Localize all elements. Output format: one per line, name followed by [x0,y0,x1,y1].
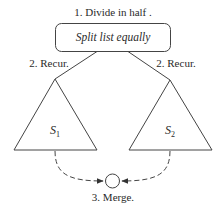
subproblem-s2-triangle: S2 [129,80,212,150]
split-box: Split list equally [56,24,171,52]
divide-and-conquer-diagram: 1. Divide in half . Split list equally 2… [0,0,221,213]
merge-node [106,174,120,188]
merge-arrow-left [55,151,103,181]
merge-arrow-right [122,151,170,181]
step1-label: 1. Divide in half . [74,6,152,18]
merge-label: 3. Merge. [92,191,135,203]
s1-label: S1 [50,123,60,139]
split-box-label: Split list equally [76,31,152,44]
subproblem-s1-triangle: S1 [14,79,97,150]
recur-right-label: 2. Recur. [156,57,196,69]
recur-left-label: 2. Recur. [29,57,69,69]
s2-label: S2 [165,123,175,139]
